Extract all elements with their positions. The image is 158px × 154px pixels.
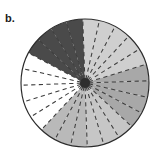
figure-panel: b. — [0, 0, 158, 154]
chart-center-hub-icon — [80, 78, 90, 88]
rose-diagram-chart — [0, 0, 158, 154]
